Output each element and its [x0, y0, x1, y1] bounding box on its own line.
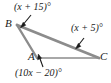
geometry-figure: B A C (x + 15)° (x + 5)° (10x − 20)° [0, 0, 111, 83]
angle-expression-c: (x + 5)° [71, 23, 103, 33]
vertex-label-b: B [5, 18, 12, 29]
leader-arrow-angle-a [38, 54, 43, 67]
vertex-label-a: A [28, 51, 35, 62]
leader-arrow-angle-b [21, 15, 32, 28]
leader-arrow-angle-c [76, 38, 84, 49]
angle-expression-b: (x + 15)° [14, 2, 51, 12]
vertex-label-c: C [100, 51, 107, 62]
angle-expression-a: (10x − 20)° [15, 68, 62, 78]
